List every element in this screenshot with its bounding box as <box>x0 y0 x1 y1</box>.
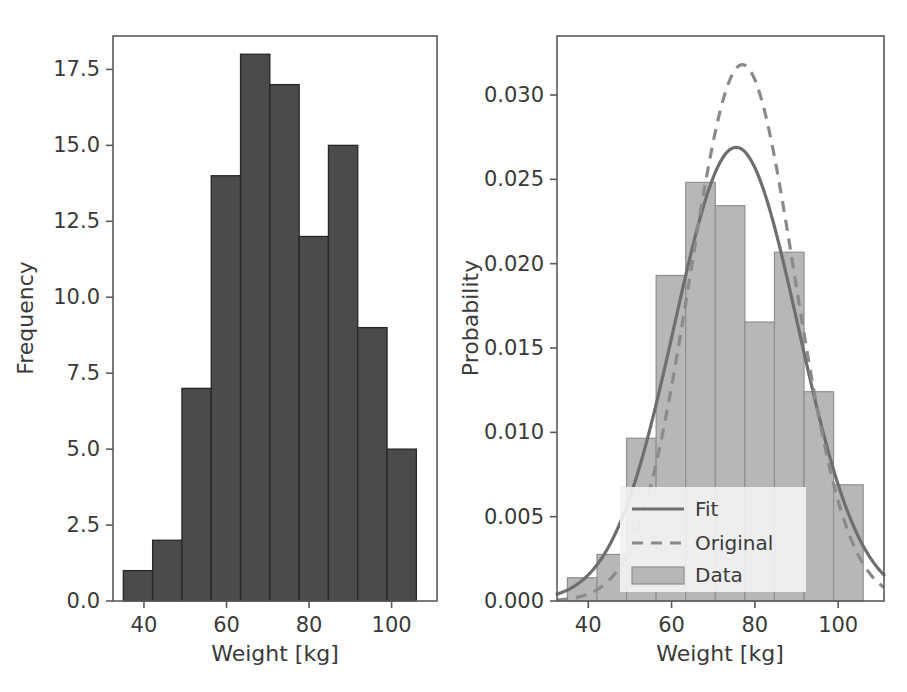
x-tick-label: 40 <box>575 613 602 637</box>
histogram-bar <box>387 449 416 601</box>
x-tick-label: 80 <box>296 613 323 637</box>
y-tick-label: 0.0 <box>67 589 100 613</box>
y-tick-label: 0.025 <box>484 167 544 191</box>
x-tick-label: 60 <box>658 613 685 637</box>
y-tick-label: 12.5 <box>53 209 100 233</box>
histogram-bar <box>123 571 152 601</box>
histogram-bar <box>182 388 211 601</box>
legend-label-data: Data <box>695 563 743 587</box>
histogram-bar <box>270 85 299 601</box>
y-tick-label: 0.020 <box>484 252 544 276</box>
y-tick-label: 0.000 <box>484 589 544 613</box>
legend-patch-icon <box>632 567 684 584</box>
x-tick-label: 60 <box>213 613 240 637</box>
left-y-axis-ticks: 0.02.55.07.510.012.515.017.5 <box>53 57 113 613</box>
figure-canvas: 406080100 0.02.55.07.510.012.515.017.5 W… <box>0 0 907 692</box>
y-tick-label: 5.0 <box>67 437 100 461</box>
histogram-bar <box>358 328 387 601</box>
right-density-svg: 406080100 0.0000.0050.0100.0150.0200.025… <box>452 0 907 692</box>
y-tick-label: 2.5 <box>67 513 100 537</box>
y-tick-label: 10.0 <box>53 285 100 309</box>
left-histogram-panel: 406080100 0.02.55.07.510.012.515.017.5 W… <box>0 0 455 692</box>
right-x-axis-title: Weight [kg] <box>656 641 784 666</box>
y-tick-label: 0.010 <box>484 420 544 444</box>
chart-legend[interactable]: Fit Original Data <box>620 487 806 592</box>
y-tick-label: 7.5 <box>67 361 100 385</box>
x-tick-label: 40 <box>131 613 158 637</box>
y-tick-label: 15.0 <box>53 133 100 157</box>
left-x-axis-title: Weight [kg] <box>211 641 339 666</box>
y-tick-label: 17.5 <box>53 57 100 81</box>
left-x-axis-ticks: 406080100 <box>131 601 412 637</box>
x-tick-label: 80 <box>741 613 768 637</box>
left-histogram-svg: 406080100 0.02.55.07.510.012.515.017.5 W… <box>0 0 455 692</box>
legend-label-fit: Fit <box>695 497 719 521</box>
y-tick-label: 0.030 <box>484 83 544 107</box>
right-density-panel: 406080100 0.0000.0050.0100.0150.0200.025… <box>452 0 907 692</box>
right-y-axis-ticks: 0.0000.0050.0100.0150.0200.0250.030 <box>484 83 557 613</box>
x-tick-label: 100 <box>818 613 858 637</box>
histogram-bar <box>328 145 357 601</box>
histogram-bar <box>211 176 240 601</box>
left-bars-group <box>123 54 416 601</box>
histogram-bar <box>804 392 834 601</box>
left-y-axis-title: Frequency <box>13 261 38 375</box>
histogram-bar <box>241 54 270 601</box>
y-tick-label: 0.005 <box>484 505 544 529</box>
histogram-bar <box>299 236 328 601</box>
histogram-bar <box>153 540 182 601</box>
right-y-axis-title: Probability <box>458 260 483 376</box>
y-tick-label: 0.015 <box>484 336 544 360</box>
legend-label-original: Original <box>695 531 773 555</box>
right-x-axis-ticks: 406080100 <box>575 601 858 637</box>
x-tick-label: 100 <box>372 613 412 637</box>
